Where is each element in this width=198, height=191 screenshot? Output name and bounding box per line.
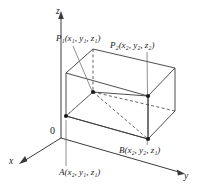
segments-group <box>66 92 148 139</box>
x-axis-arrowhead <box>19 156 27 164</box>
label-point-a: A(x₂, y₁, z₁) <box>59 168 100 177</box>
x-axis-line <box>24 138 61 161</box>
box-top-face <box>66 49 175 96</box>
box-bottom-back-edges <box>66 92 175 116</box>
label-axis-y: y <box>184 172 188 182</box>
label-point-b: B(x₂, y₂, z₁) <box>119 146 160 155</box>
label-point-p2: P₂(x₂, y₂, z₂) <box>110 41 155 50</box>
dot-b <box>146 137 150 141</box>
figure-canvas: P₁(x₁, y₁, z₁) P₂(x₂, y₂, z₂) B(x₂, y₂, … <box>0 0 198 191</box>
label-origin: 0 <box>50 126 55 136</box>
dot-p1 <box>91 90 95 94</box>
vertex-dots-group <box>64 90 150 141</box>
dot-a <box>64 114 68 118</box>
geometry-diagram <box>0 0 198 191</box>
segment-a-b <box>66 116 148 139</box>
label-axis-x: x <box>9 157 13 167</box>
label-axis-z: z <box>56 7 60 17</box>
leader-p2 <box>147 52 148 94</box>
label-point-p1: P₁(x₁, y₁, z₁) <box>56 34 101 43</box>
dot-p2 <box>146 94 150 98</box>
box-bottom-front-edges <box>66 111 175 139</box>
segment-p1-b <box>93 92 148 139</box>
